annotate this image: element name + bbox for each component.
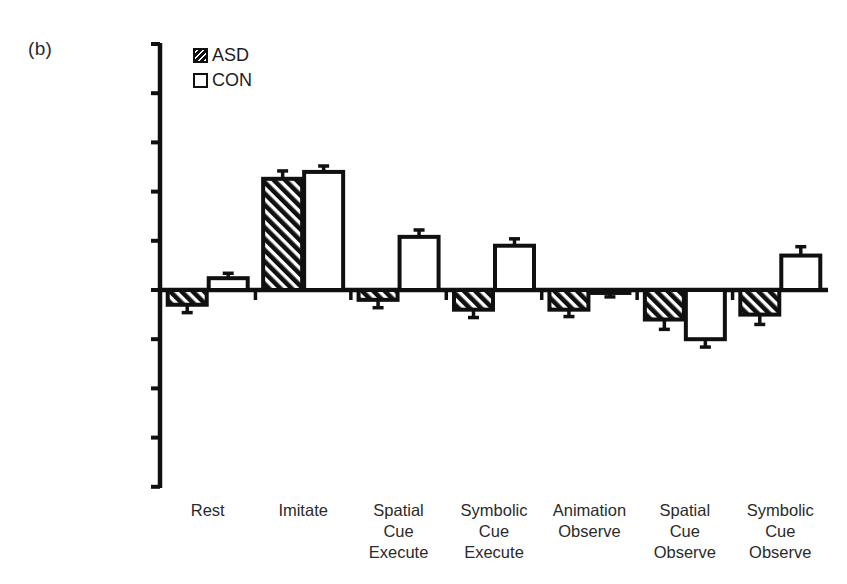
chart-legend: ASDCON <box>193 44 252 94</box>
legend-swatch-icon <box>193 73 208 88</box>
x-axis-tick-label-line: Observe <box>654 542 716 563</box>
x-axis-tick-label-0: Rest <box>191 500 225 521</box>
x-axis-tick-label-2: SpatialCueExecute <box>369 500 429 563</box>
x-axis-tick-label-1: Imitate <box>278 500 328 521</box>
legend-label: CON <box>212 70 252 91</box>
x-axis-tick-label-line: Cue <box>369 521 429 542</box>
x-axis-tick-labels: RestImitateSpatialCueExecuteSymbolicCueE… <box>0 0 847 584</box>
x-axis-tick-label-line: Spatial <box>654 500 716 521</box>
x-axis-tick-label-line: Animation <box>553 500 626 521</box>
x-axis-tick-label-line: Spatial <box>369 500 429 521</box>
x-axis-tick-label-3: SymbolicCueExecute <box>461 500 528 563</box>
x-axis-tick-label-6: SymbolicCueObserve <box>747 500 814 563</box>
x-axis-tick-label-line: Execute <box>369 542 429 563</box>
x-axis-tick-label-line: Imitate <box>278 500 328 521</box>
x-axis-tick-label-line: Observe <box>553 521 626 542</box>
x-axis-tick-label-4: AnimationObserve <box>553 500 626 542</box>
x-axis-tick-label-line: Cue <box>654 521 716 542</box>
x-axis-tick-label-line: Symbolic <box>461 500 528 521</box>
x-axis-tick-label-line: Cue <box>747 521 814 542</box>
figure-panel: (b) 0.250.20.150.10.050-0.05-0.1-0.15-0.… <box>0 0 847 584</box>
x-axis-tick-label-5: SpatialCueObserve <box>654 500 716 563</box>
x-axis-tick-label-line: Rest <box>191 500 225 521</box>
x-axis-tick-label-line: Symbolic <box>747 500 814 521</box>
x-axis-tick-label-line: Cue <box>461 521 528 542</box>
legend-swatch-icon <box>193 48 208 63</box>
x-axis-tick-label-line: Execute <box>461 542 528 563</box>
legend-label: ASD <box>212 45 249 66</box>
legend-item-con: CON <box>193 69 252 92</box>
x-axis-tick-label-line: Observe <box>747 542 814 563</box>
legend-item-asd: ASD <box>193 44 252 67</box>
